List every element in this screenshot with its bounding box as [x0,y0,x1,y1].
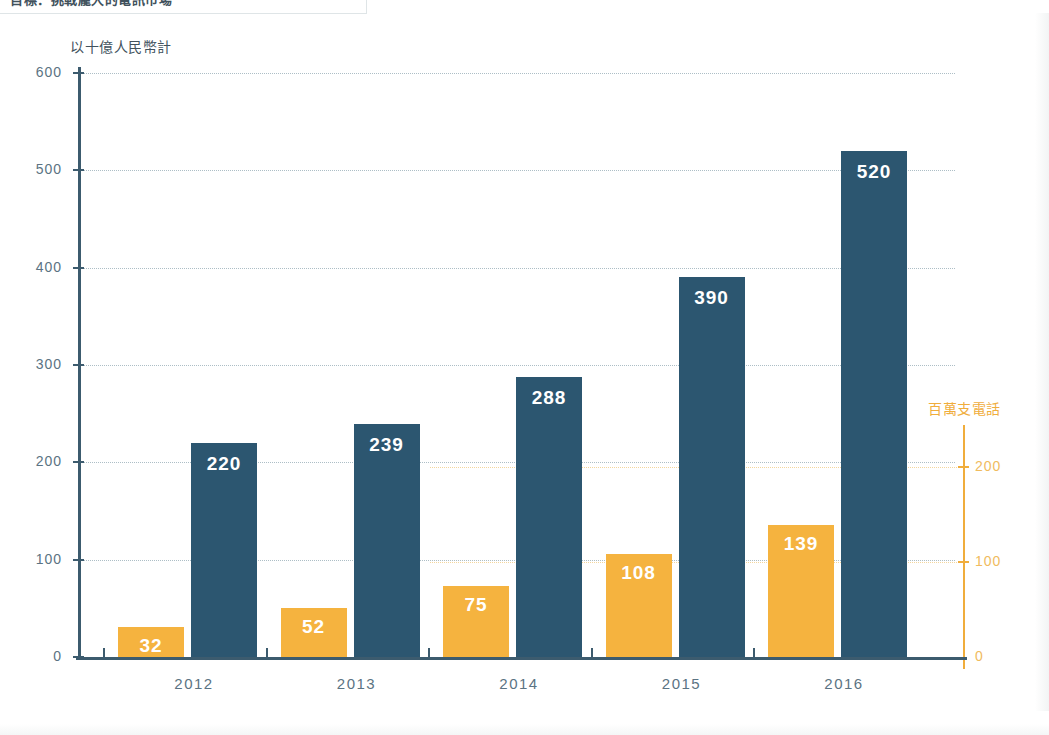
right-y-tick-200 [958,466,969,468]
left-y-tick-100 [73,559,84,561]
bar-phones-2012[interactable]: 32 [118,627,184,657]
bar-value-revenue-2015: 390 [679,287,745,309]
bar-value-revenue-2012: 220 [191,453,257,475]
x-axis-label-2013: 2013 [317,675,397,692]
x-axis-label-2012: 2012 [154,675,234,692]
gridline-left-400 [78,268,955,269]
left-y-axis-line [78,67,81,659]
bar-phones-2016[interactable]: 139 [768,525,834,657]
x-axis-label-2016: 2016 [804,675,884,692]
bar-revenue-2015[interactable]: 390 [679,277,745,657]
left-y-tick-300 [73,364,84,366]
bar-phones-2015[interactable]: 108 [606,554,672,657]
left-y-label-300: 300 [0,356,62,372]
right-y-label-0: 0 [975,648,984,664]
left-y-label-400: 400 [0,259,62,275]
bar-value-phones-2015: 108 [606,562,672,584]
right-y-tick-100 [958,561,969,563]
x-tick-2015 [591,648,593,660]
gridline-left-300 [78,365,955,366]
x-axis-line [76,657,967,660]
page-edge-right [1035,13,1049,735]
gridline-left-500 [78,170,955,171]
left-y-tick-200 [73,461,84,463]
left-y-label-0: 0 [0,648,62,664]
bar-value-phones-2012: 32 [118,635,184,657]
x-tick-2013 [266,648,268,660]
bar-value-phones-2016: 139 [768,533,834,555]
bar-revenue-2013[interactable]: 239 [354,424,420,657]
page-edge-bottom [0,711,1049,735]
bar-value-phones-2014: 75 [443,594,509,616]
bar-revenue-2014[interactable]: 288 [516,377,582,657]
x-tick-2016 [753,648,755,660]
left-y-label-500: 500 [0,161,62,177]
bar-phones-2013[interactable]: 52 [281,608,347,657]
bar-phones-2014[interactable]: 75 [443,586,509,657]
bar-revenue-2016[interactable]: 520 [841,151,907,657]
x-axis-label-2015: 2015 [642,675,722,692]
grouped-bar-chart: 以十億人民幣計 百萬支電話 01002003004005006000100200… [0,0,1049,735]
bar-value-revenue-2016: 520 [841,161,907,183]
left-y-label-600: 600 [0,64,62,80]
bar-value-revenue-2014: 288 [516,387,582,409]
bar-revenue-2012[interactable]: 220 [191,443,257,657]
left-axis-unit-label: 以十億人民幣計 [70,36,172,56]
left-y-label-100: 100 [0,551,62,567]
left-y-label-200: 200 [0,453,62,469]
chart-page: 目標：挑戰龐大的電訊市場 以十億人民幣計 百萬支電話 0100200300400… [0,0,1049,735]
right-y-label-200: 200 [975,458,1001,474]
right-y-axis-line [963,425,965,669]
gridline-left-600 [78,73,955,74]
right-axis-unit-label: 百萬支電話 [928,398,1001,418]
bar-value-revenue-2013: 239 [354,434,420,456]
left-y-tick-500 [73,169,84,171]
x-tick-2012 [103,648,105,660]
bar-value-phones-2013: 52 [281,616,347,638]
x-axis-label-2014: 2014 [479,675,559,692]
left-y-tick-600 [73,72,84,74]
right-y-label-100: 100 [975,553,1001,569]
left-y-tick-400 [73,267,84,269]
x-tick-2014 [428,648,430,660]
